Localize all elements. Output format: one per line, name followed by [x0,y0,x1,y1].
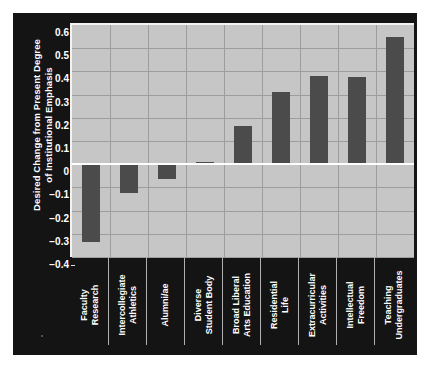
plot-area [70,23,414,257]
x-tick-label: Diverse Student Body [193,259,214,351]
y-tick-label: −0.3 [43,237,69,247]
bar [82,164,99,242]
bar [310,76,327,164]
bar [234,126,251,164]
y-tick-label: 0.3 [43,98,69,108]
vertical-gridline [186,25,187,257]
vertical-gridline [338,25,339,257]
x-tick-label: Faculty Research [79,259,100,351]
y-tick-label: 0.6 [43,28,69,38]
x-label-divider [336,257,337,345]
x-tick-label: Alumni/ae [160,259,171,351]
x-tick-label-cell: Teaching Undergraduates [374,257,412,353]
vertical-gridline [148,25,149,257]
x-label-divider [146,257,147,345]
horizontal-gridline [72,71,414,72]
y-tick-label: 0 [43,167,69,177]
y-tick-label: 0.4 [43,74,69,84]
horizontal-gridline [72,48,414,49]
bar-chart-figure: Desired Change from Present Degree of In… [0,0,428,371]
x-axis-tick-labels: Faculty ResearchIntercollegiate Athletic… [70,257,414,353]
x-tick-label-cell: Extracurricular Activities [298,257,336,353]
chart-panel: Desired Change from Present Degree of In… [13,13,417,355]
vertical-gridline [376,25,377,257]
image-speck [41,335,43,337]
x-tick-label: Residential Life [269,259,290,351]
horizontal-gridline [72,211,414,212]
x-tick-label-cell: Broad Liberal Arts Education [222,257,260,353]
vertical-gridline [262,25,263,257]
x-label-divider [108,257,109,345]
vertical-gridline [224,25,225,257]
y-axis-tick-labels: 0.60.50.40.30.20.10−0.1−0.2−0.3−0.4 [43,23,69,283]
x-tick-label-cell: Intellectual Freedom [336,257,374,353]
horizontal-gridline [72,234,414,235]
x-label-divider [374,257,375,345]
x-tick-label-cell: Diverse Student Body [184,257,222,353]
y-tick-label: −0.4 [43,260,69,270]
bar [120,164,137,193]
x-tick-label: Intercollegiate Athletics [117,259,138,351]
y-tick-label: −0.1 [43,190,69,200]
zero-baseline [72,163,414,165]
vertical-gridline [110,25,111,257]
x-tick-label: Broad Liberal Arts Education [231,259,252,351]
bar [158,164,175,179]
bar [348,77,365,164]
x-label-divider [298,257,299,345]
x-label-divider [222,257,223,345]
x-tick-label-cell: Alumni/ae [146,257,184,353]
x-tick-label-cell: Residential Life [260,257,298,353]
y-tick-label: 0.1 [43,144,69,154]
x-tick-label: Extracurricular Activities [307,259,328,351]
bar [272,92,289,164]
vertical-gridline [300,25,301,257]
y-tick-label: 0.5 [43,51,69,61]
x-tick-label-cell: Intercollegiate Athletics [108,257,146,353]
x-tick-label-cell: Faculty Research [70,257,108,353]
x-label-divider [260,257,261,345]
y-tick-label: −0.2 [43,214,69,224]
x-tick-label: Teaching Undergraduates [383,259,404,351]
x-label-divider [184,257,185,345]
bar [386,37,403,165]
y-tick-label: 0.2 [43,121,69,131]
x-tick-label: Intellectual Freedom [345,259,366,351]
